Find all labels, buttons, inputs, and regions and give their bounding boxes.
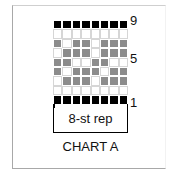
chart-cell (91, 58, 100, 67)
chart-cell (100, 39, 109, 48)
chart-cell (53, 20, 62, 29)
chart-cell (72, 29, 81, 38)
chart-cell (81, 76, 90, 85)
chart-cell (53, 39, 62, 48)
chart-cell (72, 67, 81, 76)
chart-cell (100, 58, 109, 67)
chart-cell (91, 29, 100, 38)
chart-cell (81, 86, 90, 95)
colorwork-grid (53, 20, 128, 105)
chart-cell (62, 48, 71, 57)
chart-cell (100, 76, 109, 85)
chart-title: CHART A (53, 139, 128, 154)
chart-cell (109, 86, 118, 95)
chart-cell (91, 20, 100, 29)
chart-cell (119, 48, 128, 57)
chart-cell (62, 39, 71, 48)
chart-cell (119, 76, 128, 85)
chart-cell (53, 48, 62, 57)
chart-cell (72, 20, 81, 29)
chart-cell (91, 86, 100, 95)
chart-cell (119, 20, 128, 29)
chart-cell (72, 58, 81, 67)
chart-cell (91, 76, 100, 85)
chart-cell (62, 76, 71, 85)
chart-cell (72, 86, 81, 95)
chart-cell (62, 29, 71, 38)
chart-cell (91, 67, 100, 76)
chart-cell (81, 29, 90, 38)
chart-cell (72, 48, 81, 57)
chart-cell (100, 86, 109, 95)
chart-cell (53, 67, 62, 76)
chart-cell (81, 58, 90, 67)
chart-cell (53, 29, 62, 38)
chart-cell (109, 20, 118, 29)
chart-cell (109, 39, 118, 48)
chart-cell (62, 67, 71, 76)
chart-cell (91, 48, 100, 57)
chart-cell (81, 39, 90, 48)
chart-cell (119, 67, 128, 76)
chart-cell (81, 48, 90, 57)
chart-cell (72, 76, 81, 85)
chart-cell (62, 86, 71, 95)
row-label-5: 5 (130, 52, 137, 65)
chart-cell (109, 58, 118, 67)
chart-cell (91, 39, 100, 48)
chart-cell (119, 39, 128, 48)
chart-cell (53, 86, 62, 95)
stitch-repeat-box: 8-st rep (53, 104, 128, 133)
chart-cell (119, 29, 128, 38)
chart-cell (109, 76, 118, 85)
chart-cell (109, 29, 118, 38)
row-label-9: 9 (130, 14, 137, 27)
chart-cell (62, 20, 71, 29)
chart-cell (109, 48, 118, 57)
chart-cell (119, 58, 128, 67)
chart-cell (53, 76, 62, 85)
chart-cell (81, 20, 90, 29)
row-label-1: 1 (130, 96, 137, 109)
chart-cell (100, 48, 109, 57)
chart-cell (53, 58, 62, 67)
chart-cell (62, 58, 71, 67)
chart-cell (109, 67, 118, 76)
chart-cell (100, 20, 109, 29)
chart-cell (100, 29, 109, 38)
chart-cell (119, 86, 128, 95)
chart-cell (81, 67, 90, 76)
chart-cell (72, 39, 81, 48)
stitch-repeat-label: 8-st rep (68, 111, 112, 126)
chart-cell (100, 67, 109, 76)
